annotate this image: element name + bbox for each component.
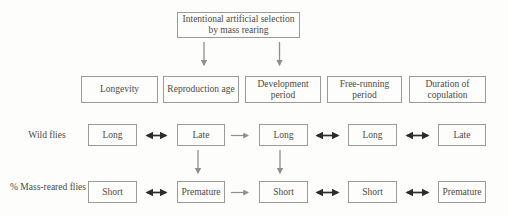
header-development-period: Development period bbox=[245, 76, 321, 103]
header-free-running-period: Free-running period bbox=[327, 76, 402, 103]
cell-mass-longevity: Short bbox=[88, 181, 137, 203]
cell-mass-duration-of-copulation: Premature bbox=[438, 181, 486, 203]
header-duration-of-copulation: Duration of copulation bbox=[409, 76, 486, 103]
cell-wild-free-running-period: Long bbox=[348, 124, 397, 146]
cell-wild-duration-of-copulation: Late bbox=[438, 124, 486, 146]
row-label-wild-flies: Wild flies bbox=[14, 130, 80, 141]
cell-mass-development-period: Short bbox=[259, 181, 308, 203]
selection-diagram: Intentional artificial selection by mass… bbox=[0, 0, 508, 216]
top-box-intentional-selection: Intentional artificial selection by mass… bbox=[177, 12, 300, 38]
cell-mass-reproduction-age: Premature bbox=[177, 181, 225, 203]
cell-mass-free-running-period: Short bbox=[348, 181, 397, 203]
cell-wild-development-period: Long bbox=[259, 124, 308, 146]
cell-wild-reproduction-age: Late bbox=[177, 124, 225, 146]
header-longevity: Longevity bbox=[81, 76, 158, 103]
header-reproduction-age: Reproduction age bbox=[163, 76, 239, 103]
cell-wild-longevity: Long bbox=[88, 124, 137, 146]
row-label-mass-reared-flies: % Mass-reared flies bbox=[8, 182, 88, 193]
